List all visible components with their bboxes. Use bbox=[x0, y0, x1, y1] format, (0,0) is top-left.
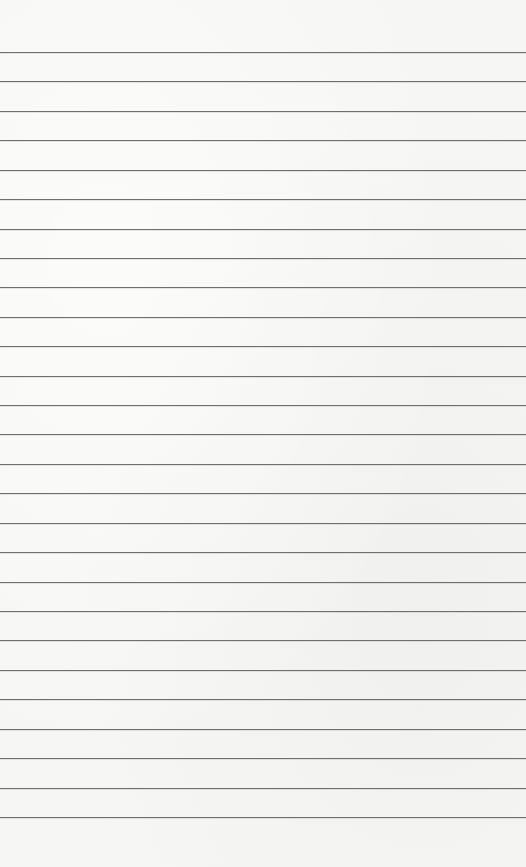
ruled-line bbox=[0, 729, 526, 730]
lined-paper bbox=[0, 0, 526, 867]
ruled-line bbox=[0, 758, 526, 759]
ruled-line bbox=[0, 52, 526, 53]
ruled-line bbox=[0, 317, 526, 318]
ruled-line bbox=[0, 376, 526, 377]
ruled-line bbox=[0, 229, 526, 230]
ruled-line bbox=[0, 434, 526, 435]
ruled-line bbox=[0, 817, 526, 818]
ruled-line bbox=[0, 699, 526, 700]
ruled-line bbox=[0, 582, 526, 583]
ruled-line bbox=[0, 788, 526, 789]
ruled-line bbox=[0, 611, 526, 612]
ruled-line bbox=[0, 81, 526, 82]
ruled-line bbox=[0, 670, 526, 671]
ruled-line bbox=[0, 640, 526, 641]
ruled-line bbox=[0, 493, 526, 494]
ruled-line bbox=[0, 405, 526, 406]
ruled-line bbox=[0, 287, 526, 288]
ruled-line bbox=[0, 464, 526, 465]
ruled-line bbox=[0, 140, 526, 141]
ruled-line bbox=[0, 170, 526, 171]
ruled-line bbox=[0, 523, 526, 524]
ruled-line bbox=[0, 552, 526, 553]
ruled-line bbox=[0, 111, 526, 112]
ruled-line bbox=[0, 346, 526, 347]
ruled-line bbox=[0, 199, 526, 200]
ruled-line bbox=[0, 258, 526, 259]
